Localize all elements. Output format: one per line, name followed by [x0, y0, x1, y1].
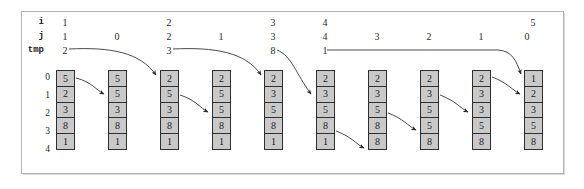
array-cell: 3	[368, 86, 387, 103]
array-cell: 1	[212, 133, 231, 150]
array-cell: 2	[524, 86, 543, 103]
array-cell: 3	[472, 102, 491, 119]
arrow-shift-col7-row2-to-col8-row3	[388, 113, 416, 130]
array-column-9: 2 3 3 5 8	[472, 70, 491, 150]
arrow-shift-col9-row0-to-col10-row1	[492, 77, 520, 94]
row-index-2: 2	[38, 108, 50, 118]
value-i-col-5: 3	[264, 17, 282, 28]
array-column-1: 5 2 3 8 1	[56, 70, 75, 150]
array-cell: 8	[160, 117, 179, 134]
array-column-4: 2 5 5 8 1	[212, 70, 231, 150]
array-cell: 5	[368, 102, 387, 119]
label-j: j	[8, 31, 44, 41]
shift-arrows-layer	[0, 0, 584, 189]
array-cell: 8	[108, 117, 127, 134]
array-cell: 3	[56, 102, 75, 119]
value-j-col-5: 3	[264, 31, 282, 42]
label-i: i	[8, 17, 44, 27]
array-cell: 8	[316, 117, 335, 134]
array-cell: 8	[472, 133, 491, 150]
array-cell: 1	[108, 133, 127, 150]
value-j-col-6: 4	[316, 31, 334, 42]
value-tmp-col-5: 8	[264, 45, 282, 56]
array-cell: 8	[368, 117, 387, 134]
array-column-7: 2 3 5 8 8	[368, 70, 387, 150]
array-cell: 5	[472, 117, 491, 134]
array-cell: 3	[108, 102, 127, 119]
array-cell: 2	[264, 70, 283, 87]
value-j-col-1: 1	[56, 31, 74, 42]
row-index-4: 4	[38, 144, 50, 154]
array-cell: 2	[420, 70, 439, 87]
array-cell: 1	[160, 133, 179, 150]
value-j-col-8: 2	[420, 31, 438, 42]
array-cell: 5	[56, 70, 75, 87]
array-cell: 3	[316, 86, 335, 103]
value-tmp-col-3: 3	[160, 45, 178, 56]
array-cell: 5	[264, 102, 283, 119]
array-column-3: 2 5 3 8 1	[160, 70, 179, 150]
trace-canvas: i j tmp 0 1 2 3 4 1 1 2 5 2 3 8 1 0 5 5 …	[0, 0, 584, 189]
array-column-10: 1 2 3 5 8	[524, 70, 543, 150]
value-i-final: 5	[524, 17, 542, 28]
array-column-5: 2 3 5 8 1	[264, 70, 283, 150]
array-column-2: 5 5 3 8 1	[108, 70, 127, 150]
array-cell: 8	[264, 117, 283, 134]
value-j-col-9: 1	[472, 31, 490, 42]
array-cell: 8	[420, 133, 439, 150]
array-cell: 3	[264, 86, 283, 103]
arrow-shift-col6-row3-to-col7-row4	[336, 131, 364, 148]
array-cell: 3	[524, 102, 543, 119]
array-cell: 1	[524, 70, 543, 87]
array-cell: 5	[212, 102, 231, 119]
value-tmp-col-6: 1	[316, 45, 334, 56]
array-cell: 5	[420, 117, 439, 134]
array-cell: 2	[160, 70, 179, 87]
array-cell: 5	[524, 117, 543, 134]
array-cell: 1	[316, 133, 335, 150]
insertion-sort-trace-figure: i j tmp 0 1 2 3 4 1 1 2 5 2 3 8 1 0 5 5 …	[0, 0, 584, 189]
array-column-8: 2 3 5 5 8	[420, 70, 439, 150]
array-cell: 2	[472, 70, 491, 87]
value-i-col-6: 4	[316, 17, 334, 28]
value-j-col-10: 0	[518, 31, 536, 42]
row-index-3: 3	[38, 126, 50, 136]
array-cell: 1	[264, 133, 283, 150]
array-cell: 5	[316, 102, 335, 119]
array-cell: 8	[368, 133, 387, 150]
array-cell: 3	[160, 102, 179, 119]
value-j-col-2: 0	[108, 31, 126, 42]
value-j-col-7: 3	[368, 31, 386, 42]
value-j-col-3: 2	[160, 31, 178, 42]
value-j-col-4: 1	[212, 31, 230, 42]
array-cell: 3	[472, 86, 491, 103]
arrow-shift-col3-row1-to-col4-row2	[180, 95, 208, 112]
array-cell: 8	[212, 117, 231, 134]
array-cell: 8	[56, 117, 75, 134]
array-cell: 5	[420, 102, 439, 119]
arrow-shift-col8-row1-to-col9-row2	[440, 95, 468, 112]
array-cell: 2	[56, 86, 75, 103]
array-cell: 2	[368, 70, 387, 87]
array-cell: 8	[524, 133, 543, 150]
array-cell: 5	[212, 86, 231, 103]
array-cell: 3	[420, 86, 439, 103]
array-cell: 2	[316, 70, 335, 87]
array-cell: 2	[212, 70, 231, 87]
row-index-1: 1	[38, 90, 50, 100]
value-i-col-1: 1	[56, 17, 74, 28]
array-cell: 5	[108, 70, 127, 87]
array-column-6: 2 3 5 8 1	[316, 70, 335, 150]
label-tmp: tmp	[8, 45, 44, 55]
array-cell: 5	[108, 86, 127, 103]
value-i-col-3: 2	[160, 17, 178, 28]
array-cell: 1	[56, 133, 75, 150]
arrow-shift-col1-row0-to-col2-row1	[76, 78, 104, 94]
value-tmp-col-1: 2	[56, 45, 74, 56]
row-index-0: 0	[38, 72, 50, 82]
array-cell: 5	[160, 86, 179, 103]
